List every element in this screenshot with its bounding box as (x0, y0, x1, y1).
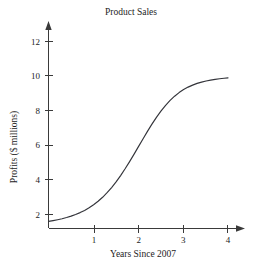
y-tick-label-4: 4 (36, 175, 41, 185)
y-tick-label-12: 12 (31, 37, 40, 47)
profits-curve (49, 78, 228, 222)
x-tick-label-1: 1 (92, 235, 97, 245)
chart-container: Product Sales 2 4 6 8 10 12 (0, 0, 255, 263)
x-tick-label-2: 2 (136, 235, 141, 245)
y-axis-arrow-icon (45, 21, 51, 30)
y-axis-tick-labels: 2 4 6 8 10 12 (31, 37, 41, 220)
y-tick-label-10: 10 (31, 71, 41, 81)
product-sales-line-chart: Product Sales 2 4 6 8 10 12 (0, 0, 255, 263)
y-tick-label-8: 8 (36, 106, 41, 116)
y-tick-label-6: 6 (36, 140, 41, 150)
x-axis-arrow-icon (236, 225, 245, 231)
y-axis-title: Profits ($ millions) (9, 111, 20, 183)
x-tick-label-3: 3 (181, 235, 186, 245)
x-axis-tick-labels: 1 2 3 4 (92, 235, 231, 245)
x-tick-label-4: 4 (226, 235, 231, 245)
x-axis-title: Years Since 2007 (110, 249, 176, 259)
chart-title: Product Sales (105, 7, 157, 17)
y-tick-label-2: 2 (36, 210, 41, 220)
